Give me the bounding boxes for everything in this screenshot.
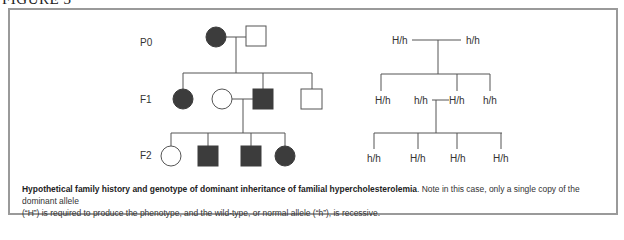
caption-bold: Hypothetical family history and genotype… (22, 184, 417, 194)
genotype-p0-1: H/h (392, 35, 408, 46)
genotype-f1-2: h/h (414, 95, 428, 106)
genotype-f2-3: H/h (450, 153, 466, 164)
p0-male-unaffected-symbol (246, 26, 266, 46)
f2-male-affected-symbol (241, 146, 261, 166)
figure-caption: Hypothetical family history and genotype… (22, 183, 602, 219)
generation-label-f2: F2 (140, 150, 152, 161)
f1-male-affected-symbol (253, 89, 273, 109)
generation-label-f1: F1 (140, 94, 152, 105)
caption-line2: (“H”) is required to produce the phenoty… (22, 208, 380, 218)
f1-female-affected-symbol (173, 89, 193, 109)
genotype-f1-1: H/h (375, 95, 391, 106)
genotype-f1-4: h/h (483, 95, 497, 106)
genotype-f2-1: h/h (367, 153, 381, 164)
f1-male-unaffected-symbol (301, 89, 322, 109)
f1-female-unaffected-symbol (212, 89, 232, 109)
p0-female-affected-symbol (206, 27, 226, 47)
pedigree-lines (171, 37, 312, 146)
genotype-f2-4: H/h (493, 153, 509, 164)
genotype-f2-2: H/h (410, 153, 426, 164)
generation-label-p0: P0 (140, 37, 153, 48)
genotype-p0-2: h/h (466, 35, 480, 46)
genotype-f1-3: H/h (449, 95, 465, 106)
f2-female-unaffected-symbol (161, 146, 181, 166)
f2-male-affected-symbol (198, 146, 218, 166)
f2-female-affected-symbol (275, 146, 295, 166)
